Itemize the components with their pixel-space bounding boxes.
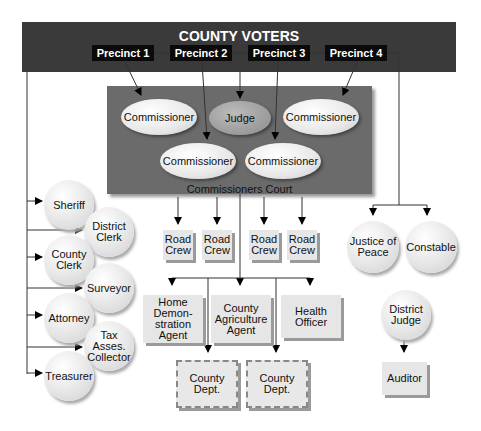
- surveyor-node: Surveyor: [84, 263, 134, 313]
- constable-node: Constable: [405, 221, 457, 273]
- justice-of-peace-node: Justice of Peace: [347, 221, 399, 273]
- district-judge-node: District Judge: [381, 290, 431, 340]
- road-crew-2: Road Crew: [202, 230, 232, 260]
- county-agriculture-agent-box: County Agriculture Agent: [211, 295, 271, 343]
- health-officer-box: Health Officer: [281, 295, 341, 338]
- home-demonstration-agent-box: Home Demon-stration Agent: [143, 295, 203, 343]
- road-crew-3: Road Crew: [249, 230, 279, 260]
- tax-assessor-collector-node: Tax Asses. Collector: [84, 321, 134, 371]
- county-dept-1: County Dept.: [176, 360, 238, 408]
- road-crew-1: Road Crew: [163, 230, 193, 260]
- road-crew-4: Road Crew: [287, 230, 317, 260]
- county-dept-2: County Dept.: [246, 360, 308, 408]
- auditor-box: Auditor: [382, 362, 427, 395]
- treasurer-node: Treasurer: [44, 351, 94, 401]
